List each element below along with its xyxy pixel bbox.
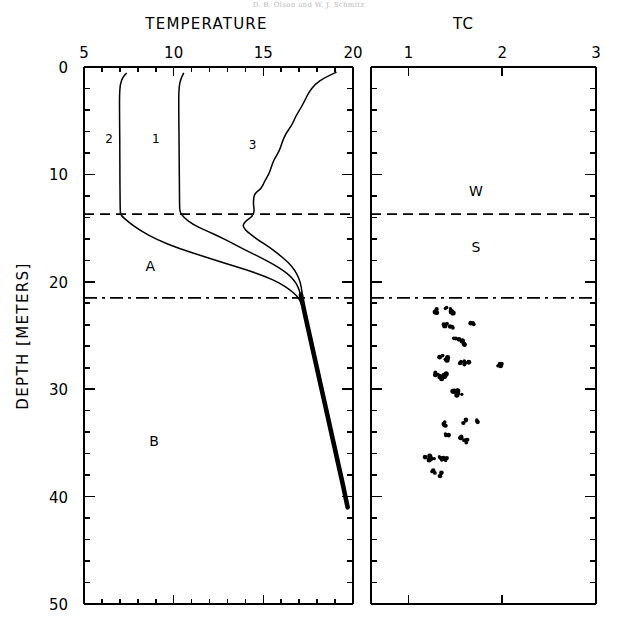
figure-root: D. B. Olson and W. J. Schmitz 5101520123…	[0, 0, 617, 629]
tc-data-point	[458, 435, 466, 442]
temperature-profile-3	[243, 72, 336, 303]
tc-data-point	[441, 420, 447, 427]
left-x-tick-label: 20	[343, 44, 362, 62]
tc-data-point	[438, 471, 444, 479]
tc-scatter-layer	[423, 306, 504, 478]
depth-tick-label: 50	[49, 596, 68, 614]
depth-tick-label: 40	[49, 489, 68, 507]
tc-data-point	[449, 309, 456, 316]
depth-axis-title: DEPTH [METERS]	[14, 262, 32, 410]
temperature-axis-title: TEMPERATURE	[144, 15, 267, 33]
tc-axis-title: TC	[452, 15, 474, 33]
layer-a-label: A	[146, 258, 156, 274]
tc-data-point	[461, 418, 468, 426]
left-x-tick-label: 10	[164, 44, 183, 62]
tc-data-point	[433, 307, 440, 315]
left-x-tick-label: 15	[254, 44, 273, 62]
profile-figure: 510152012301020304050TEMPERATURETCDEPTH …	[0, 0, 617, 629]
tc-data-point	[430, 468, 437, 475]
running-head: D. B. Olson and W. J. Schmitz	[0, 1, 617, 9]
tc-data-point	[444, 432, 451, 437]
summer-label: S	[472, 239, 481, 255]
right-x-tick-label: 2	[497, 44, 507, 62]
tc-data-point	[437, 354, 444, 360]
tc-data-point	[460, 338, 467, 347]
depth-tick-label: 20	[49, 274, 68, 292]
tc-data-point	[428, 456, 436, 461]
tc-data-point	[468, 321, 475, 326]
curve-1-label: 1	[152, 132, 160, 146]
reference-lines-layer	[84, 214, 596, 298]
tc-data-point	[475, 418, 480, 424]
depth-tick-label: 30	[49, 381, 68, 399]
curve-3-label: 3	[249, 138, 257, 152]
curve-2-label: 2	[105, 132, 113, 146]
right-x-tick-label: 3	[591, 44, 601, 62]
right-x-tick-label: 1	[404, 44, 414, 62]
tc-data-point	[441, 371, 448, 379]
tc-data-point	[448, 324, 455, 329]
labels-layer: 510152012301020304050TEMPERATURETCDEPTH …	[14, 15, 601, 614]
left-x-tick-label: 5	[79, 44, 89, 62]
depth-tick-label: 0	[58, 59, 68, 77]
tc-data-point	[444, 355, 451, 363]
temperature-profile-1	[179, 73, 302, 303]
winter-label: W	[469, 183, 483, 199]
depth-tick-label: 10	[49, 166, 68, 184]
axes-layer	[84, 67, 596, 604]
tc-data-point	[496, 362, 504, 369]
tc-data-point	[442, 322, 449, 329]
layer-b-label: B	[149, 433, 159, 449]
temperature-profile-merged	[301, 295, 348, 508]
